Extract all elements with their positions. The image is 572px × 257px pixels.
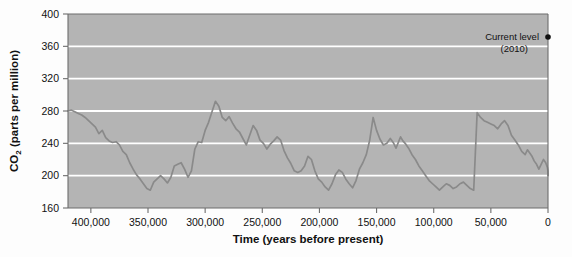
x-tick-label: 0	[545, 216, 551, 228]
svg-text:CO2 (parts per million): CO2 (parts per million)	[8, 50, 23, 172]
y-tick-label: 400	[41, 8, 59, 20]
x-tick-label: 50,000	[475, 216, 507, 228]
y-tick-label: 160	[41, 202, 59, 214]
x-tick-label: 150,000	[358, 216, 396, 228]
y-axis-ticks: 160200240280320360400	[41, 8, 68, 214]
x-tick-label: 400,000	[72, 216, 110, 228]
y-tick-label: 280	[41, 105, 59, 117]
y-tick-label: 240	[41, 137, 59, 149]
y-axis-title: CO2 (parts per million)	[8, 50, 23, 172]
annotation-line-1: Current level	[485, 31, 539, 42]
y-axis-title-co: CO	[8, 155, 20, 172]
x-tick-label: 200,000	[300, 216, 338, 228]
x-axis-ticks: 400,000350,000300,000250,000200,000150,0…	[72, 208, 551, 228]
x-tick-label: 250,000	[243, 216, 281, 228]
co2-ice-core-chart: 160200240280320360400 400,000350,000300,…	[0, 0, 572, 257]
x-axis-title: Time (years before present)	[233, 233, 384, 245]
y-tick-label: 200	[41, 169, 59, 181]
x-tick-label: 350,000	[129, 216, 167, 228]
figure-container: 160200240280320360400 400,000350,000300,…	[0, 0, 572, 257]
current-level-dot	[545, 34, 551, 40]
annotation-line-2: (2010)	[501, 43, 528, 54]
x-tick-label: 100,000	[415, 216, 453, 228]
x-tick-label: 300,000	[186, 216, 224, 228]
y-tick-label: 360	[41, 40, 59, 52]
y-axis-title-rest: (parts per million)	[8, 50, 20, 150]
y-tick-label: 320	[41, 72, 59, 84]
